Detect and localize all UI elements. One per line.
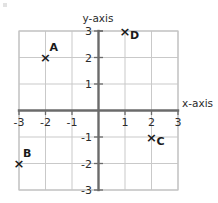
coordinate-plane-figure: -3 -2 -1 1 2 3 3 2 1 -1 -2 -3 x-axis y-a… [0,0,218,203]
x-tick-label-3: 3 [175,116,182,129]
x-tick-label-neg1: -1 [67,116,78,129]
y-tick-label-2: 2 [85,52,92,65]
x-tick-label-1: 1 [122,116,129,129]
x-tick-label-neg3: -3 [14,116,25,129]
x-tick-label-neg2: -2 [40,116,51,129]
y-tick-label-1: 1 [85,78,92,91]
corner-speck [3,3,7,7]
y-tick-label-neg2: -2 [81,158,92,171]
point-label-b: B [23,147,31,160]
point-label-a: A [50,41,59,54]
x-tick-label-2: 2 [148,116,155,129]
y-tick-label-neg1: -1 [81,131,92,144]
y-tick-label-neg3: -3 [81,184,92,197]
point-marker-c: × [146,130,157,145]
y-axis-title: y-axis [83,12,114,24]
point-label-c: C [157,135,165,148]
coordinate-plane-svg: -3 -2 -1 1 2 3 3 2 1 -1 -2 -3 x-axis y-a… [0,0,218,203]
y-tick-label-3: 3 [85,25,92,38]
point-label-d: D [130,29,139,42]
point-marker-d: × [120,24,131,39]
x-axis-title: x-axis [182,97,213,109]
